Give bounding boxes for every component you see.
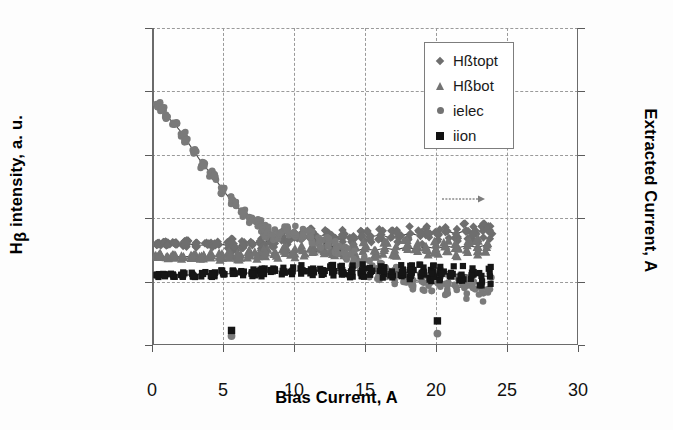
legend-item-label: iion	[453, 127, 476, 144]
y-axis-left-tick	[145, 28, 152, 29]
y-axis-left-title-subscript: β	[12, 232, 30, 242]
y-axis-left-title-rest: intensity, a. u.	[7, 115, 25, 232]
triangle-marker	[434, 79, 447, 92]
x-axis-tick-label: 25	[487, 380, 527, 401]
y-axis-left-tick	[145, 218, 152, 219]
legend-item[interactable]: Hßbot	[425, 73, 513, 98]
legend-item[interactable]: iion	[425, 123, 513, 148]
data-series-layer	[152, 28, 578, 345]
y-axis-right-tick	[578, 218, 585, 219]
diamond-marker	[434, 54, 447, 67]
x-axis-tick-label: 20	[416, 380, 456, 401]
chart-figure: Hβ intensity, a. u. Extracted Current, A…	[0, 0, 673, 430]
y-axis-left-tick	[145, 345, 152, 346]
chart-legend: HßtoptHßbotieleciion	[424, 42, 514, 149]
circle-marker	[434, 104, 447, 117]
y-axis-left-title-main: H	[7, 242, 25, 254]
y-axis-right-tick	[578, 155, 585, 156]
series-iion	[154, 261, 494, 334]
y-axis-right-tick	[578, 345, 585, 346]
x-axis-tick-label: 5	[203, 380, 243, 401]
x-axis-tick	[578, 345, 579, 352]
arrow-annotation-icon	[442, 194, 486, 204]
y-axis-right-tick	[578, 282, 585, 283]
x-axis-tick	[436, 345, 437, 352]
legend-item-label: Hßtopt	[453, 52, 498, 69]
x-axis-tick	[152, 345, 153, 352]
x-axis-tick-label: 0	[132, 380, 172, 401]
y-axis-right-title: Extracted Current, A	[636, 55, 666, 325]
plot-area: 0.0E+005.0E+181.0E+191.5E+192.0E+192.5E+…	[152, 28, 578, 345]
y-axis-left-tick	[145, 91, 152, 92]
x-axis-tick	[294, 345, 295, 352]
x-axis-tick	[223, 345, 224, 352]
square-marker	[434, 129, 447, 142]
x-axis-tick	[365, 345, 366, 352]
y-axis-right-title-text: Extracted Current, A	[642, 108, 661, 272]
y-axis-right-tick	[578, 91, 585, 92]
y-axis-left-title: Hβ intensity, a. u.	[6, 60, 32, 310]
legend-item[interactable]: Hßtopt	[425, 48, 513, 73]
x-axis-tick-label: 30	[558, 380, 598, 401]
x-axis-tick-label: 10	[274, 380, 314, 401]
legend-item-label: Hßbot	[453, 77, 494, 94]
x-axis-tick-label: 15	[345, 380, 385, 401]
x-axis-tick	[507, 345, 508, 352]
data-points-svg	[152, 28, 578, 345]
y-axis-right-tick	[578, 28, 585, 29]
legend-item[interactable]: ielec	[425, 98, 513, 123]
y-axis-left-tick	[145, 282, 152, 283]
legend-item-label: ielec	[453, 102, 484, 119]
y-axis-left-tick	[145, 155, 152, 156]
